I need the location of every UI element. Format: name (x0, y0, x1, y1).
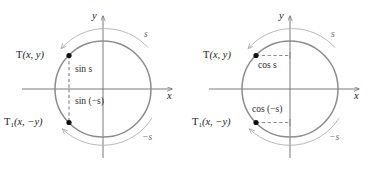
y-axis-label: y (92, 11, 97, 22)
point-label-T: T(x, y) (203, 50, 231, 61)
cosine-diagram-canvas (191, 0, 381, 171)
segment-label-sin-neg-s: sin (−s) (75, 97, 104, 107)
point-T1 (253, 120, 258, 125)
sine-symmetry-diagram: T(x, y) T1(x, −y) sin s sin (−s) y x s −… (0, 0, 190, 171)
point-T (66, 53, 71, 58)
arc-s-path (61, 29, 148, 49)
figure-root: T(x, y) T1(x, −y) sin s sin (−s) y x s −… (0, 0, 381, 171)
arc-label-s: s (331, 30, 335, 40)
x-axis-label: x (354, 91, 359, 102)
point-label-T: T(x, y) (16, 50, 44, 61)
cosine-symmetry-diagram: T(x, y) T1(x, −y) cos s cos (−s) y x s −… (191, 0, 381, 171)
sine-diagram-canvas (0, 0, 190, 171)
segment-label-sin-s: sin s (75, 65, 92, 75)
point-T1 (66, 120, 71, 125)
point-T (253, 53, 258, 58)
arc-label-neg-s: −s (142, 133, 152, 143)
point-label-T1: T1(x, −y) (192, 117, 231, 129)
x-axis-label: x (167, 91, 172, 102)
segment-label-cos-s: cos s (258, 61, 277, 71)
arc-label-s: s (144, 30, 148, 40)
point-label-T-args: (x, y) (209, 49, 231, 60)
point-label-T-args: (x, y) (22, 49, 44, 60)
y-axis-label: y (279, 11, 284, 22)
point-label-T1: T1(x, −y) (4, 117, 43, 129)
point-label-T1-args: (x, −y) (14, 116, 43, 127)
point-label-T1-args: (x, −y) (202, 116, 231, 127)
arc-s-path (248, 29, 335, 49)
segment-label-cos-neg-s: cos (−s) (252, 105, 282, 115)
arc-label-neg-s: −s (329, 133, 339, 143)
